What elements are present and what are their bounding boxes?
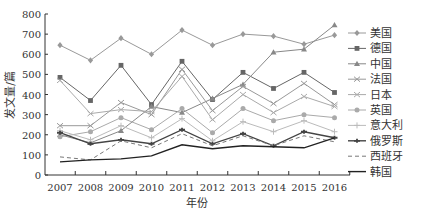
x-marker bbox=[301, 94, 307, 99]
x-marker bbox=[210, 117, 216, 122]
legend-item: 日本 bbox=[348, 88, 392, 102]
x-marker bbox=[240, 92, 246, 97]
legend-label: 德国 bbox=[370, 41, 392, 55]
circle-marker bbox=[88, 129, 93, 134]
plus-marker bbox=[118, 123, 124, 129]
square-marker bbox=[332, 90, 337, 95]
series-5 bbox=[58, 106, 338, 139]
legend-item: 西班牙 bbox=[348, 150, 403, 163]
x-marker bbox=[271, 101, 277, 106]
y-axis-title: 发文量/篇 bbox=[3, 71, 17, 119]
series-line bbox=[60, 76, 335, 119]
circle-marker bbox=[332, 115, 337, 120]
x-axis-title: 年份 bbox=[186, 196, 208, 210]
diamond-marker bbox=[179, 27, 184, 33]
diamond-marker bbox=[88, 57, 93, 63]
circle-marker bbox=[149, 127, 154, 132]
legend-label: 中国 bbox=[370, 58, 392, 71]
legend-label: 法国 bbox=[370, 72, 392, 86]
x-marker bbox=[301, 81, 307, 86]
plus-marker bbox=[240, 119, 246, 125]
x-tick-label: 2011 bbox=[169, 182, 194, 193]
y-tick-label: 100 bbox=[22, 150, 41, 161]
x-marker bbox=[179, 74, 185, 79]
square-marker bbox=[119, 63, 124, 68]
square-marker bbox=[88, 98, 93, 103]
diamond-marker bbox=[271, 33, 276, 39]
circle-marker bbox=[119, 115, 124, 120]
x-marker bbox=[210, 108, 216, 113]
series-line bbox=[60, 30, 335, 60]
x-tick-label: 2016 bbox=[322, 182, 347, 193]
chart-plot-area bbox=[57, 22, 338, 162]
circle-marker bbox=[271, 118, 276, 123]
plus-marker bbox=[271, 129, 277, 135]
y-tick-label: 0 bbox=[35, 170, 41, 181]
y-tick-label: 500 bbox=[22, 69, 41, 80]
diamond-marker bbox=[57, 42, 62, 48]
square-marker bbox=[302, 70, 307, 75]
y-tick-label: 700 bbox=[22, 29, 41, 40]
plus-marker bbox=[149, 135, 155, 141]
diamond-marker bbox=[240, 31, 245, 37]
legend-label: 英国 bbox=[370, 103, 392, 117]
plus-marker bbox=[354, 122, 360, 128]
y-tick-label: 600 bbox=[22, 49, 41, 60]
legend-item: 俄罗斯 bbox=[348, 135, 403, 148]
chart-axes: 0100200300400500600700800200720082009201… bbox=[22, 9, 350, 193]
y-tick-label: 300 bbox=[22, 110, 41, 121]
triangle-marker bbox=[332, 22, 338, 27]
x-tick-label: 2012 bbox=[200, 182, 225, 193]
legend-label: 美国 bbox=[370, 27, 392, 40]
legend-item: 德国 bbox=[348, 41, 392, 55]
series-0 bbox=[57, 27, 337, 63]
diamond-marker bbox=[210, 42, 215, 48]
square-marker bbox=[355, 46, 360, 51]
series-line bbox=[60, 109, 335, 137]
legend-item: 英国 bbox=[348, 103, 392, 117]
series-line bbox=[60, 25, 335, 143]
square-marker bbox=[180, 59, 185, 64]
y-tick-label: 800 bbox=[22, 9, 41, 20]
series-2 bbox=[57, 22, 338, 145]
plus-marker bbox=[332, 129, 338, 135]
series-9 bbox=[60, 138, 335, 162]
x-tick-label: 2009 bbox=[108, 182, 133, 193]
legend-item: 法国 bbox=[348, 72, 392, 86]
x-marker bbox=[118, 100, 124, 105]
circle-marker bbox=[241, 106, 246, 111]
legend-item: 中国 bbox=[348, 58, 392, 71]
plus-marker bbox=[301, 118, 307, 124]
line-chart: 0100200300400500600700800200720082009201… bbox=[0, 0, 425, 216]
legend-label: 韩国 bbox=[370, 165, 392, 179]
circle-marker bbox=[355, 108, 360, 113]
x-marker bbox=[271, 110, 277, 115]
x-tick-label: 2013 bbox=[230, 182, 255, 193]
series-7 bbox=[57, 128, 338, 148]
chart-legend: 美国德国中国法国日本英国意大利俄罗斯西班牙韩国 bbox=[348, 27, 403, 179]
diamond-marker bbox=[149, 51, 154, 57]
legend-label: 西班牙 bbox=[370, 150, 403, 163]
circle-marker bbox=[210, 130, 215, 135]
diamond-marker bbox=[118, 35, 123, 41]
square-marker bbox=[271, 86, 276, 91]
square-marker bbox=[241, 70, 246, 75]
x-tick-label: 2010 bbox=[139, 182, 164, 193]
y-tick-label: 400 bbox=[22, 90, 41, 101]
star-marker bbox=[354, 139, 360, 143]
diamond-marker bbox=[332, 32, 337, 38]
x-tick-label: 2007 bbox=[47, 182, 72, 193]
series-line bbox=[60, 130, 335, 146]
x-tick-label: 2014 bbox=[261, 182, 286, 193]
diamond-marker bbox=[354, 30, 359, 36]
legend-item: 韩国 bbox=[348, 165, 392, 179]
x-tick-label: 2008 bbox=[78, 182, 103, 193]
y-tick-label: 200 bbox=[22, 130, 41, 141]
legend-label: 意大利 bbox=[370, 118, 403, 132]
x-marker bbox=[179, 67, 185, 72]
series-line bbox=[60, 138, 335, 162]
legend-label: 日本 bbox=[370, 88, 392, 102]
circle-marker bbox=[58, 134, 63, 139]
series-1 bbox=[58, 59, 337, 107]
x-tick-label: 2015 bbox=[291, 182, 316, 193]
